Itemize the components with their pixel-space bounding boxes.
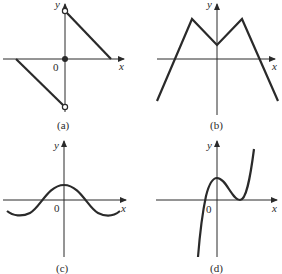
origin-label: 0 (54, 202, 60, 214)
x-label: x (271, 60, 277, 72)
caption: (a) (57, 119, 70, 132)
figure-canvas: y x 0 (a) y x (b) y x 0 (c) y x 0 (d) (0, 0, 282, 274)
filled-dot-origin (62, 56, 68, 62)
upper-segment (67, 13, 111, 59)
origin-label: 0 (53, 61, 59, 73)
open-circle-top (62, 8, 67, 13)
y-label: y (53, 139, 59, 151)
y-label: y (206, 139, 212, 151)
panel-a: y x 0 (a) (3, 0, 124, 132)
panel-c: y x 0 (c) (3, 139, 126, 274)
panel-b: y x (b) (157, 0, 278, 132)
y-label: y (206, 0, 212, 10)
x-label: x (271, 202, 277, 214)
y-label: y (54, 0, 60, 10)
x-label: x (118, 60, 124, 72)
caption: (b) (210, 119, 223, 132)
origin-label: 0 (206, 203, 212, 215)
x-label: x (120, 202, 126, 214)
caption: (c) (56, 262, 69, 274)
panel-d: y x 0 (d) (156, 139, 277, 274)
open-circle-bottom (62, 104, 67, 109)
caption: (d) (210, 262, 223, 274)
